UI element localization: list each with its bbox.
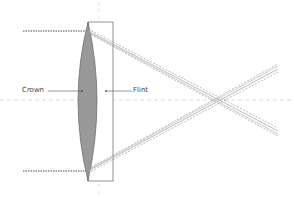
crown-leader-dot xyxy=(81,90,83,92)
flint-leader-dot xyxy=(105,90,107,92)
flint-label: Flint xyxy=(133,87,148,94)
crown-label: Crown xyxy=(22,87,44,94)
achromat-diagram xyxy=(0,0,294,198)
